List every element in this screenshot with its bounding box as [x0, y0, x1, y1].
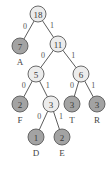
node-weight: 3	[70, 100, 75, 110]
leaf-symbol-label: R	[94, 115, 100, 125]
node-weight: 1	[34, 133, 39, 143]
node-weight: 11	[54, 40, 63, 50]
edge-bit-label: 0	[23, 22, 27, 31]
edge-bit-label: 0	[41, 51, 45, 60]
internal-node: 6	[73, 66, 89, 82]
node-weight: 18	[34, 10, 44, 20]
edge-bit-label: 0	[70, 81, 74, 90]
edge-bit-label: 1	[71, 51, 75, 60]
leaf-node: 3T	[64, 96, 80, 125]
leaf-symbol-label: T	[69, 115, 75, 125]
edge-bit-label: 1	[50, 21, 54, 30]
edge-bit-label: 0	[22, 81, 26, 90]
leaf-node: 2E	[54, 129, 70, 158]
edge-bit-label: 1	[46, 81, 50, 90]
internal-node: 11	[50, 36, 66, 52]
node-weight: 3	[95, 100, 100, 110]
internal-node: 18	[30, 6, 46, 22]
edge-bit-label: 0	[37, 112, 41, 121]
node-weight: 6	[79, 70, 84, 80]
node-weight: 2	[60, 133, 65, 143]
node-weight: 5	[34, 70, 39, 80]
leaf-symbol-label: A	[17, 57, 24, 67]
leaf-symbol-label: E	[59, 148, 65, 158]
leaf-node: 2F	[12, 96, 28, 125]
edge-bit-label: 1	[59, 112, 63, 121]
huffman-tree-diagram: 0101010101 187A11562F33T3R1D2E	[0, 0, 112, 171]
internal-node: 5	[28, 66, 44, 82]
node-weight: 3	[49, 100, 54, 110]
leaf-node: 7A	[12, 38, 28, 67]
node-weight: 2	[18, 100, 23, 110]
leaf-symbol-label: D	[33, 148, 40, 158]
internal-node: 3	[43, 96, 59, 112]
leaf-node: 1D	[28, 129, 44, 158]
leaf-symbol-label: F	[17, 115, 22, 125]
edge-bit-label: 1	[91, 81, 95, 90]
node-weight: 7	[18, 42, 23, 52]
leaf-node: 3R	[89, 96, 105, 125]
